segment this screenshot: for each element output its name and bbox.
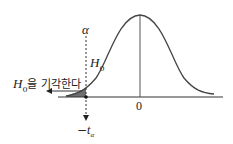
critical-value-label: −tα — [77, 124, 94, 139]
null-sub: 0 — [99, 64, 104, 73]
distribution-diagram — [0, 0, 233, 144]
zero-tick-label: 0 — [136, 100, 142, 112]
minus-sign: − — [77, 123, 87, 137]
null-hypothesis-label: H0 — [90, 54, 104, 73]
arrow-down-icon — [83, 115, 89, 121]
critical-sub: α — [90, 131, 94, 139]
null-h: H — [90, 55, 99, 70]
reject-h: H — [13, 76, 22, 91]
reject-null-label: H0을 기각한다 — [13, 75, 81, 94]
reject-text: 을 기각한다 — [27, 78, 81, 91]
alpha-label: α — [82, 23, 89, 36]
critical-point — [84, 95, 88, 99]
